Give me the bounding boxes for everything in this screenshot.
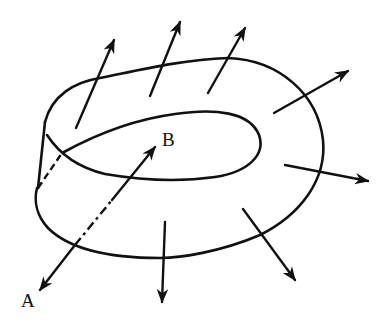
label-b: B — [162, 129, 175, 150]
normal-vector-6 — [243, 209, 295, 280]
path-segment-a — [40, 245, 75, 290]
normal-vector-3 — [208, 28, 245, 93]
path-segment-hidden — [75, 200, 112, 245]
path-segment-b — [112, 147, 155, 200]
normal-vector-5 — [285, 165, 368, 181]
normal-vector-7 — [162, 222, 165, 302]
label-a: A — [21, 290, 35, 311]
mobius-surface-diagram: B A — [0, 0, 389, 328]
outer-rim-curve — [36, 58, 324, 258]
normal-vector-2 — [150, 22, 180, 96]
